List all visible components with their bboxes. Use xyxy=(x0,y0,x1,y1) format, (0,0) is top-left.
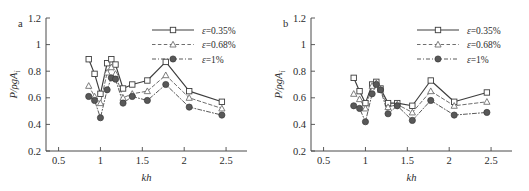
y-axis-title-main: P/ρgA xyxy=(8,72,19,100)
marker-open-square xyxy=(145,78,150,83)
x-tick-label: 2.5 xyxy=(220,155,233,166)
figure-container: a0.20.40.60.811.20.511.522.5khP/ρgAiε=0.… xyxy=(0,0,529,191)
marker-filled-circle xyxy=(373,81,379,87)
chart-svg-a: a0.20.40.60.811.20.511.522.5khP/ρgAiε=0.… xyxy=(0,0,264,191)
y-axis-title-sub: i xyxy=(277,70,286,72)
marker-open-square xyxy=(428,78,433,83)
marker-filled-circle xyxy=(97,115,103,121)
y-axis-title-sub: i xyxy=(13,70,22,72)
legend-label-1: ε=0.35% xyxy=(467,26,501,36)
marker-open-square xyxy=(435,27,440,32)
x-axis-title: kh xyxy=(406,172,416,183)
y-tick-label: 0.2 xyxy=(292,146,305,157)
marker-filled-circle xyxy=(350,103,356,109)
marker-filled-circle xyxy=(219,112,225,118)
marker-filled-circle xyxy=(451,112,457,118)
marker-filled-circle xyxy=(120,100,126,106)
marker-filled-circle xyxy=(170,56,176,62)
y-tick-label: 1 xyxy=(36,39,41,50)
y-axis-title: P/ρgAi xyxy=(273,70,287,99)
y-tick-label: 0.4 xyxy=(28,119,42,130)
marker-filled-circle xyxy=(377,87,383,93)
marker-filled-circle xyxy=(369,91,375,97)
marker-open-square xyxy=(409,103,414,108)
y-tick-label: 0.8 xyxy=(292,66,305,77)
marker-open-triangle xyxy=(86,83,92,89)
y-tick-label: 0.8 xyxy=(28,66,41,77)
legend-value: =0.35% xyxy=(470,26,500,36)
marker-open-square xyxy=(130,82,135,87)
marker-open-square xyxy=(351,75,356,80)
legend-value: =0.68% xyxy=(470,40,500,50)
x-tick-label: 2 xyxy=(182,155,187,166)
marker-filled-circle xyxy=(91,97,97,103)
legend-value: =0.35% xyxy=(206,26,236,36)
y-tick-label: 0.6 xyxy=(292,92,305,103)
x-axis-title: kh xyxy=(142,172,152,183)
marker-open-square xyxy=(187,88,192,93)
marker-open-square xyxy=(120,86,125,91)
legend: ε=0.35%ε=0.68%ε=1% xyxy=(152,26,236,65)
x-tick-label: 1.5 xyxy=(400,155,413,166)
y-tick-label: 1.2 xyxy=(28,13,41,24)
chart-svg-b: b0.20.40.60.811.20.511.522.5khP/ρgAiε=0.… xyxy=(265,0,529,191)
y-axis-title-main: P/ρgA xyxy=(273,72,284,100)
x-tick-label: 1 xyxy=(98,155,103,166)
marker-filled-circle xyxy=(129,93,135,99)
marker-filled-circle xyxy=(362,119,368,125)
marker-filled-circle xyxy=(483,109,489,115)
x-tick-label: 1.5 xyxy=(136,155,149,166)
chart-panel-a: a0.20.40.60.811.20.511.522.5khP/ρgAiε=0.… xyxy=(0,0,265,191)
x-tick-label: 2 xyxy=(446,155,451,166)
marker-filled-circle xyxy=(434,56,440,62)
marker-open-square xyxy=(170,27,175,32)
marker-filled-circle xyxy=(356,105,362,111)
x-tick-label: 0.5 xyxy=(52,155,65,166)
marker-open-square xyxy=(92,71,97,76)
marker-open-square xyxy=(113,62,118,67)
marker-open-square xyxy=(86,57,91,62)
legend: ε=0.35%ε=0.68%ε=1% xyxy=(417,26,501,65)
marker-filled-circle xyxy=(394,103,400,109)
series-line-3 xyxy=(89,78,222,118)
y-tick-label: 0.2 xyxy=(28,146,41,157)
marker-open-square xyxy=(163,59,168,64)
legend-label-2: ε=0.68% xyxy=(202,40,236,50)
marker-filled-circle xyxy=(104,87,110,93)
marker-filled-circle xyxy=(144,97,150,103)
y-tick-label: 0.6 xyxy=(28,92,41,103)
panel-label: b xyxy=(283,18,288,29)
axis-frame xyxy=(46,18,247,151)
legend-label-3: ε=1% xyxy=(202,55,224,65)
marker-filled-circle xyxy=(384,111,390,117)
x-tick-label: 2.5 xyxy=(484,155,497,166)
marker-open-square xyxy=(356,88,361,93)
chart-panel-b: b0.20.40.60.811.20.511.522.5khP/ρgAiε=0.… xyxy=(265,0,529,191)
panel-label: a xyxy=(18,18,23,29)
y-axis-title: P/ρgAi xyxy=(8,70,22,99)
marker-filled-circle xyxy=(163,81,169,87)
marker-open-triangle xyxy=(427,88,433,94)
x-tick-label: 1 xyxy=(362,155,367,166)
series-markers-3 xyxy=(86,75,225,121)
marker-open-square xyxy=(219,99,224,104)
y-tick-label: 1 xyxy=(300,39,305,50)
legend-label-1: ε=0.35% xyxy=(202,26,236,36)
marker-filled-circle xyxy=(186,104,192,110)
y-tick-label: 1.2 xyxy=(292,13,305,24)
marker-open-square xyxy=(109,57,114,62)
marker-open-square xyxy=(484,90,489,95)
marker-open-square xyxy=(98,91,103,96)
legend-value: =1% xyxy=(206,55,224,65)
x-tick-label: 0.5 xyxy=(317,155,330,166)
legend-label-2: ε=0.68% xyxy=(467,40,501,50)
marker-filled-circle xyxy=(427,97,433,103)
legend-value: =1% xyxy=(470,55,488,65)
marker-open-triangle xyxy=(163,72,169,78)
marker-filled-circle xyxy=(112,76,118,82)
marker-open-triangle xyxy=(483,99,489,105)
marker-open-triangle xyxy=(350,91,356,97)
marker-filled-circle xyxy=(86,93,92,99)
marker-filled-circle xyxy=(409,117,415,123)
legend-label-3: ε=1% xyxy=(467,55,489,65)
